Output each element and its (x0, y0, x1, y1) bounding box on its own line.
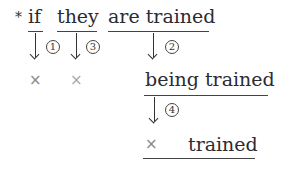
step-number-3: 3 (86, 40, 100, 54)
word-they: they (57, 6, 99, 26)
step-number-4: 4 (165, 103, 179, 117)
word-are-trained: are trained (108, 6, 215, 26)
arrow-down-icon (76, 33, 77, 57)
cross-icon: × (29, 71, 42, 89)
asterisk-marker: * (15, 9, 22, 25)
underline-if (28, 31, 43, 32)
underline-trained (143, 158, 255, 159)
word-if: if (28, 6, 41, 26)
underline-being-trained (144, 95, 268, 96)
arrow-down-icon (154, 97, 155, 121)
step-number-1: 1 (46, 40, 60, 54)
arrow-down-icon (35, 33, 36, 57)
cross-icon: × (145, 135, 158, 153)
underline-they (57, 31, 97, 32)
underline-are-trained (108, 31, 209, 32)
step-number-2: 2 (165, 40, 179, 54)
word-trained: trained (188, 134, 258, 154)
arrow-down-icon (153, 33, 154, 57)
cross-icon: × (70, 71, 83, 89)
word-being-trained: being trained (145, 69, 275, 89)
